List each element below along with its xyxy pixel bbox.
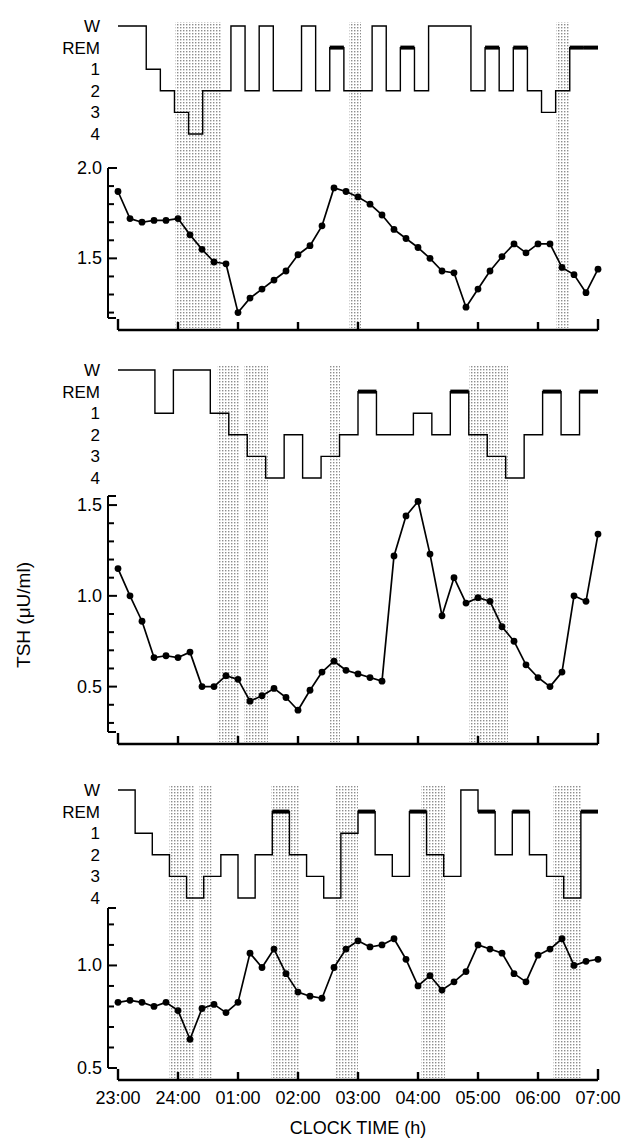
tsh-point (415, 983, 422, 990)
tsh-point (439, 268, 446, 275)
tsh-point (307, 242, 314, 249)
sws-band-3 (469, 366, 508, 742)
tsh-point (499, 253, 506, 260)
tsh-point (271, 685, 278, 692)
tsh-point (451, 269, 458, 276)
tsh-point (271, 946, 278, 953)
stage-label-2: 2 (91, 426, 100, 445)
tsh-point (199, 683, 206, 690)
tsh-point (499, 623, 506, 630)
tsh-point (343, 946, 350, 953)
tsh-point (127, 592, 134, 599)
tsh-point (547, 946, 554, 953)
tsh-point (559, 669, 566, 676)
stage-label-2: 2 (91, 846, 100, 865)
stage-label-rem: REM (62, 383, 100, 402)
y-tick-label: 0.5 (77, 677, 102, 697)
tsh-point (247, 698, 254, 705)
tsh-point (427, 551, 434, 558)
x-tick-label: 01:00 (215, 1088, 260, 1108)
panel-3: WREM12340.51.0 (62, 781, 601, 1080)
tsh-point (535, 674, 542, 681)
tsh-point (247, 950, 254, 957)
stage-label-3: 3 (91, 103, 100, 122)
tsh-point (595, 531, 602, 538)
stage-label-rem: REM (62, 39, 100, 58)
tsh-point (127, 997, 134, 1004)
stage-label-w: W (84, 781, 100, 800)
tsh-point (559, 935, 566, 942)
tsh-point (427, 255, 434, 262)
tsh-point (595, 266, 602, 273)
tsh-point (571, 271, 578, 278)
tsh-point (319, 995, 326, 1002)
sws-band-2 (556, 22, 569, 328)
tsh-point (283, 268, 290, 275)
tsh-point (403, 235, 410, 242)
stage-label-4: 4 (91, 469, 100, 488)
tsh-point (427, 972, 434, 979)
tsh-point (235, 676, 242, 683)
tsh-point (187, 1036, 194, 1043)
x-tick-label: 24:00 (155, 1088, 200, 1108)
tsh-point (211, 1001, 218, 1008)
tsh-point (151, 1003, 158, 1010)
figure-root: WREM12341.52.0WREM12340.51.01.5WREM12340… (0, 0, 623, 1143)
tsh-point (439, 987, 446, 994)
panel-1: WREM12341.52.0 (62, 17, 601, 330)
tsh-point (379, 678, 386, 685)
tsh-point (211, 683, 218, 690)
tsh-point (391, 226, 398, 233)
tsh-point (223, 1009, 230, 1016)
tsh-point (547, 683, 554, 690)
tsh-point (259, 286, 266, 293)
tsh-point (223, 672, 230, 679)
tsh-point (475, 942, 482, 949)
tsh-point (295, 989, 302, 996)
tsh-point (343, 188, 350, 195)
y-tick-label: 1.0 (77, 955, 102, 975)
x-tick-label: 03:00 (335, 1088, 380, 1108)
tsh-point (583, 958, 590, 965)
sws-band-2 (329, 366, 340, 742)
tsh-point (511, 970, 518, 977)
x-tick-label: 23:00 (95, 1088, 140, 1108)
tsh-point (331, 964, 338, 971)
sws-band-0 (175, 22, 221, 328)
x-tick-label: 06:00 (515, 1088, 560, 1108)
tsh-point (547, 241, 554, 248)
sws-band-3 (335, 786, 358, 1078)
tsh-point (247, 295, 254, 302)
stage-label-1: 1 (91, 404, 100, 423)
tsh-point (511, 638, 518, 645)
tsh-point (523, 250, 530, 257)
tsh-point (463, 600, 470, 607)
tsh-point (295, 251, 302, 258)
tsh-point (379, 212, 386, 219)
stage-label-rem: REM (62, 803, 100, 822)
stage-label-w: W (84, 17, 100, 36)
stage-label-1: 1 (91, 60, 100, 79)
tsh-point (115, 565, 122, 572)
tsh-point (523, 661, 530, 668)
tsh-point (463, 304, 470, 311)
tsh-point (367, 674, 374, 681)
tsh-point (319, 222, 326, 229)
tsh-point (307, 993, 314, 1000)
sws-band-0 (169, 786, 195, 1078)
tsh-point (223, 260, 230, 267)
tsh-point (535, 952, 542, 959)
tsh-point (535, 241, 542, 248)
tsh-point (511, 241, 518, 248)
tsh-point (475, 594, 482, 601)
tsh-point (283, 694, 290, 701)
tsh-point (163, 652, 170, 659)
tsh-point (583, 289, 590, 296)
tsh-point (307, 687, 314, 694)
tsh-point (487, 946, 494, 953)
tsh-point (487, 268, 494, 275)
y-tick-label: 1.5 (77, 248, 102, 268)
x-axis-title: CLOCK TIME (h) (290, 1118, 427, 1138)
tsh-point (199, 1005, 206, 1012)
x-tick-label: 05:00 (455, 1088, 500, 1108)
